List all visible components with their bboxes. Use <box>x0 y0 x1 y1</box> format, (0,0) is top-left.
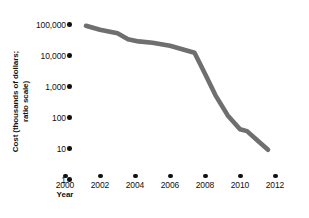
cost-per-year-line-chart: Cost (thousands of dollars; ratio scale)… <box>0 0 309 218</box>
plot-line-svg <box>0 0 309 218</box>
chart-screenshot: Cost (thousands of dollars; ratio scale)… <box>0 0 309 218</box>
cost-series-line <box>86 26 268 150</box>
